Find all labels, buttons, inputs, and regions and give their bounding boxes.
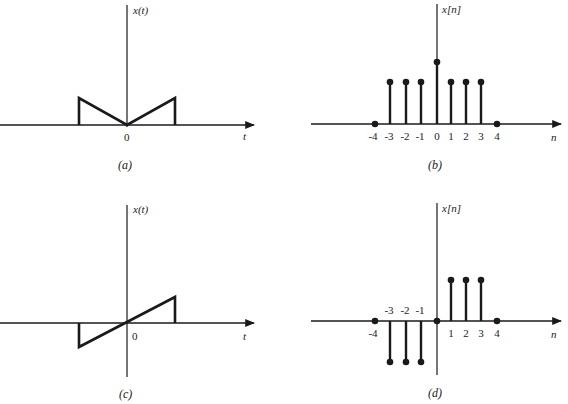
svg-text:-2: -2 [400,130,409,142]
svg-text:-3: -3 [384,130,394,142]
tick-labels-above: -3 -2 -1 [384,304,424,316]
x-axis-label: n [551,328,557,340]
svg-text:4: 4 [494,327,500,339]
x-axis-label: t [243,130,247,142]
panel-caption: (c) [119,387,132,401]
panel-caption: (d) [428,386,442,400]
stems [390,62,481,124]
y-axis-label: x[n] [441,3,461,15]
origin-label: 0 [124,131,130,143]
panel-a: x(t) 0 t (a) [0,4,254,172]
svg-text:2: 2 [463,327,469,339]
panel-caption: (a) [118,158,132,172]
svg-text:4: 4 [494,130,500,142]
y-axis-label: x(t) [132,4,149,17]
svg-text:-1: -1 [415,304,424,316]
svg-text:0: 0 [434,130,440,142]
y-axis-label: x[n] [441,202,461,214]
panel-c: x(t) 0 t (c) [0,203,254,401]
svg-text:-3: -3 [384,304,394,316]
tick-labels: -4 -3 -2 -1 0 1 2 3 4 [368,130,500,142]
svg-text:-2: -2 [400,304,409,316]
svg-text:2: 2 [463,130,469,142]
panel-d: -3 -2 -1 -4 1 2 3 4 x[n] n (d) [311,202,561,400]
panel-b: -4 -3 -2 -1 0 1 2 3 4 x[n] n (b) [311,3,561,172]
signal-figure: x(t) 0 t (a) -4 [0,0,568,404]
panel-caption: (b) [428,158,442,172]
x-axis-label: n [551,131,557,143]
svg-text:-4: -4 [368,130,378,142]
y-axis-label: x(t) [132,203,149,216]
origin-label: 0 [132,330,138,342]
svg-text:3: 3 [478,327,484,339]
svg-text:1: 1 [448,327,454,339]
tick-labels-below: -4 1 2 3 4 [368,327,500,339]
svg-text:3: 3 [478,130,484,142]
x-axis-label: t [243,330,247,342]
svg-text:-4: -4 [368,327,378,339]
svg-text:-1: -1 [415,130,424,142]
svg-text:1: 1 [448,130,454,142]
